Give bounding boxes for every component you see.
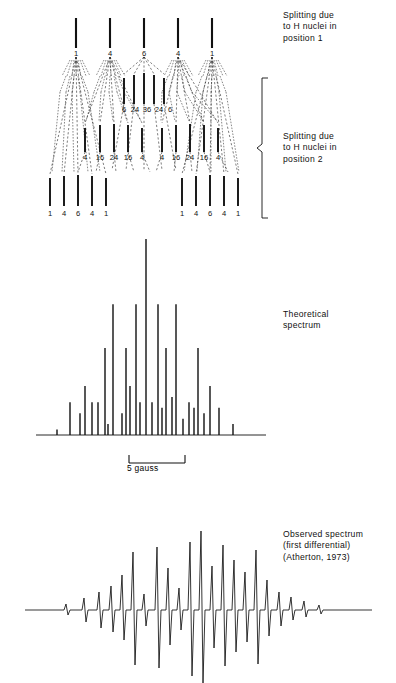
tree-label-l3-2: 24 [110, 153, 118, 162]
tree-label-l2-1: 24 [131, 105, 139, 114]
tree-label-l4-4: 1 [104, 209, 108, 218]
position-2-bracket [257, 78, 268, 218]
tree-label-l4-8: 4 [222, 209, 226, 218]
tree-label-l3-5: 4 [160, 153, 164, 162]
tree-label-l4-7: 6 [208, 209, 212, 218]
tree-level-4-lines [50, 175, 238, 206]
tree-label-l3-6: 16 [172, 153, 180, 162]
tree-label-l3-1: 16 [96, 153, 104, 162]
scale-bar-label: 5 gauss [127, 463, 158, 473]
annotation-splitting-position-2: Splitting due to H nuclei in position 2 [283, 131, 337, 165]
tree-label-l4-0: 1 [48, 209, 52, 218]
tree-label-l3-8: 16 [200, 153, 208, 162]
tree-level-3-lines [85, 124, 218, 152]
tree-label-l3-3: 16 [124, 153, 132, 162]
tree-label-l3-9: 4 [216, 153, 220, 162]
tree-label-l1-2: 6 [142, 49, 146, 58]
tree-label-l2-3: 24 [155, 105, 163, 114]
annotation-observed-spectrum: Observed spectrum (first differential) (… [283, 529, 363, 563]
tree-label-l3-0: 4 [83, 153, 87, 162]
tree-label-l1-0: 1 [74, 49, 78, 58]
tree-label-l4-3: 4 [90, 209, 94, 218]
tree-label-l4-1: 4 [62, 209, 66, 218]
tree-label-l3-4: 4 [140, 153, 144, 162]
tree-label-l1-4: 1 [210, 49, 214, 58]
tree-label-l4-9: 1 [236, 209, 240, 218]
annotation-theoretical-spectrum: Theoretical spectrum [283, 309, 329, 332]
tree-label-l1-3: 4 [176, 49, 180, 58]
tree-label-l2-0: 6 [122, 105, 126, 114]
tree-label-l2-2: 36 [143, 105, 151, 114]
tree-label-l4-6: 4 [194, 209, 198, 218]
tree-label-l4-5: 1 [180, 209, 184, 218]
scale-bar [129, 455, 185, 463]
figure-canvas: 1 4 6 4 1 6 24 36 24 6 4 16 24 16 4 4 16… [0, 0, 396, 683]
tree-level-2-lines [124, 73, 164, 104]
tree-level-1-lines [76, 18, 212, 48]
annotation-splitting-position-1: Splitting due to H nuclei in position 1 [283, 10, 337, 44]
theoretical-sticks [57, 239, 233, 435]
tree-label-l3-7: 24 [186, 153, 194, 162]
tree-label-l4-2: 6 [76, 209, 80, 218]
tree-label-l1-1: 4 [108, 49, 112, 58]
tree-label-l2-4: 6 [168, 105, 172, 114]
esr-figure: 1 4 6 4 1 6 24 36 24 6 4 16 24 16 4 4 16… [0, 0, 396, 683]
tree-feathers [52, 60, 239, 172]
